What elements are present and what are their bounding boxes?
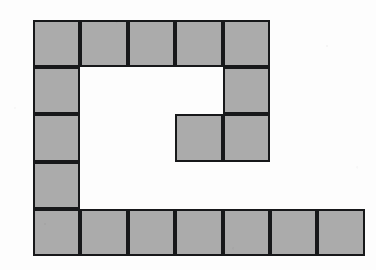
grid-cell-r5c4 bbox=[175, 209, 222, 256]
grid-cell-r5c2 bbox=[80, 209, 127, 256]
grid-cell-r5c3 bbox=[128, 209, 175, 256]
shaded-grid-figure bbox=[0, 0, 376, 270]
grid-cell-r5c5 bbox=[223, 209, 270, 256]
grid-cell-r5c6 bbox=[270, 209, 317, 256]
grid-cell-r5c1 bbox=[33, 209, 80, 256]
grid-cell-r1c2 bbox=[80, 20, 127, 67]
grid-cell-r5c7 bbox=[317, 209, 364, 256]
grid-cell-r3c1 bbox=[33, 114, 80, 161]
grid-cell-r1c4 bbox=[175, 20, 222, 67]
grid-cell-r1c5 bbox=[223, 20, 270, 67]
grid-cell-r4c1 bbox=[33, 162, 80, 209]
grid-cell-r2c1 bbox=[33, 67, 80, 114]
grid-cell-r3c5 bbox=[223, 114, 270, 161]
grid-cell-r2c5 bbox=[223, 67, 270, 114]
grid-cell-r3c4 bbox=[175, 114, 222, 161]
grid-cell-r1c3 bbox=[128, 20, 175, 67]
grid-cell-r1c1 bbox=[33, 20, 80, 67]
